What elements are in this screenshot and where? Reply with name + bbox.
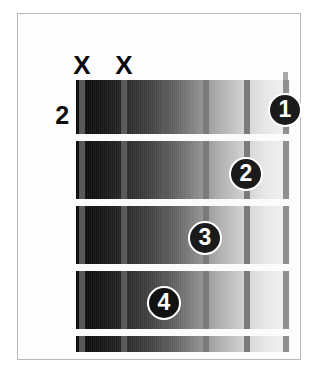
fret-line-3: [76, 264, 290, 271]
fretboard-grain: [76, 80, 290, 352]
string-5: [244, 80, 250, 352]
mute-marker-string-2: X: [112, 52, 136, 78]
finger-marker-1: 1: [268, 93, 302, 127]
fret-line-1: [76, 134, 290, 141]
fretboard: [76, 80, 290, 352]
mute-marker-string-1: X: [70, 52, 94, 78]
finger-marker-4: 4: [147, 286, 181, 320]
fret-line-2: [76, 199, 290, 206]
fret-line-4: [76, 329, 290, 336]
string-1: [79, 80, 85, 352]
string-2: [121, 80, 127, 352]
chord-diagram-card: 2 X X 1 2 3 4: [17, 13, 301, 360]
string-4: [203, 80, 209, 352]
finger-marker-3: 3: [188, 221, 222, 255]
fret-position-label: 2: [51, 102, 73, 129]
finger-marker-2: 2: [229, 157, 263, 191]
